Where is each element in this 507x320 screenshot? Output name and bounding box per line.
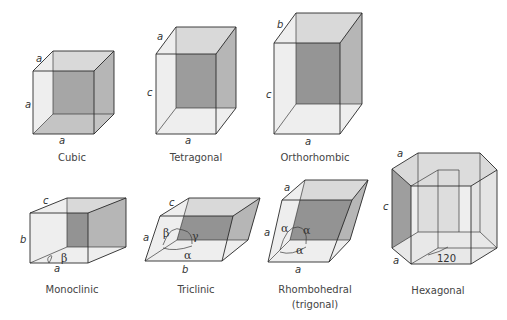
triclinic-axis-top: c bbox=[169, 197, 175, 208]
monoclinic-label: Monoclinic bbox=[46, 284, 99, 295]
tetragonal-cell bbox=[156, 27, 236, 134]
triclinic-label: Triclinic bbox=[176, 284, 214, 295]
triclinic-axis-bottom: b bbox=[182, 264, 188, 275]
hexagonal-axis-top: a bbox=[397, 148, 403, 159]
rhombohedral-axis-bottom: a bbox=[295, 264, 301, 275]
monoclinic-axis-top: c bbox=[43, 195, 49, 206]
orthorhombic-cell bbox=[274, 13, 362, 134]
rhombohedral-cell bbox=[268, 180, 368, 262]
rhombohedral-angle-alpha-1: α bbox=[281, 222, 289, 235]
monoclinic-axis-bottom: a bbox=[54, 263, 60, 274]
tetragonal-axis-top: a bbox=[157, 31, 163, 42]
orthorhombic-axis-top: b bbox=[277, 19, 283, 30]
cubic-axis-bottom: a bbox=[59, 135, 65, 146]
tetragonal-axis-side: c bbox=[147, 87, 153, 98]
hexagonal-axis-side: c bbox=[383, 201, 389, 212]
cubic-axis-side: a bbox=[25, 99, 31, 110]
monoclinic-cell bbox=[30, 198, 126, 263]
tetragonal-label: Tetragonal bbox=[169, 152, 222, 163]
rhombohedral-angle-alpha-3: α bbox=[296, 244, 304, 257]
triclinic-axis-side: a bbox=[143, 232, 149, 243]
rhombohedral-sublabel: (trigonal) bbox=[292, 299, 338, 310]
rhombohedral-label: Rhombohedral bbox=[278, 284, 351, 295]
cubic-cell bbox=[33, 51, 114, 134]
hexagonal-cell bbox=[392, 153, 497, 264]
cubic-axis-top: a bbox=[36, 53, 42, 64]
triclinic-angle-alpha: α bbox=[184, 249, 192, 262]
rhombohedral-axis-side: a bbox=[264, 227, 270, 238]
hexagonal-label: Hexagonal bbox=[411, 285, 464, 296]
monoclinic-axis-side: b bbox=[20, 234, 26, 245]
triclinic-angle-gamma: γ bbox=[192, 230, 199, 243]
triclinic-angle-beta: β bbox=[163, 227, 169, 240]
orthorhombic-axis-bottom: a bbox=[305, 136, 311, 147]
monoclinic-angle-beta: β bbox=[61, 252, 67, 265]
rhombohedral-angle-alpha-2: α bbox=[303, 224, 311, 237]
hexagonal-angle-value: 120 bbox=[437, 253, 456, 264]
hexagonal-axis-bottom: a bbox=[393, 255, 399, 266]
rhombohedral-axis-top: a bbox=[284, 182, 290, 193]
tetragonal-axis-bottom: a bbox=[185, 135, 191, 146]
orthorhombic-axis-side: c bbox=[266, 89, 272, 100]
cubic-label: Cubic bbox=[58, 152, 86, 163]
crystal-systems-diagram: a a a Cubic a c a Tetragonal b c a Ortho… bbox=[0, 0, 507, 320]
orthorhombic-label: Orthorhombic bbox=[280, 152, 349, 163]
